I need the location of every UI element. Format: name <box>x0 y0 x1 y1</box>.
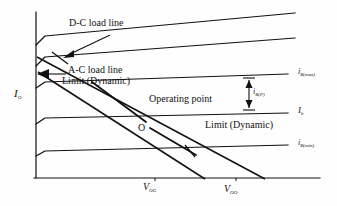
ac-load-line-label: A-C load line <box>68 65 122 75</box>
curve-label-ib-min: iB(min) <box>298 139 314 147</box>
curve-label-ib-max: iB(max) <box>298 68 315 76</box>
dc-load-line-label: D-C load line <box>69 18 123 28</box>
limit-dynamic-upper-label: Limit (Dynamic) <box>62 76 130 86</box>
ac-load-line <box>38 72 205 179</box>
x-tick-label-vog: VOG <box>143 182 156 192</box>
limit-dynamic-lower-segment <box>150 128 196 155</box>
limit-tick-upper <box>52 52 68 64</box>
limit-dynamic-lower-label: Limit (Dynamic) <box>205 120 273 130</box>
operating-point-marker: O <box>138 123 145 133</box>
dc-load-line-leader <box>63 35 110 58</box>
curve-label-ib: Ib <box>298 106 304 115</box>
y-axis-label: IO <box>14 88 21 99</box>
operating-point-label: Operating point <box>149 94 212 104</box>
characteristic-curve-5 <box>36 145 288 156</box>
x-tick-label-voo: VOO <box>224 184 237 194</box>
swing-amplitude-label: iB(P) <box>253 88 265 96</box>
figure-container: IO D-C load line A-C load line Limit (Dy… <box>0 0 337 206</box>
